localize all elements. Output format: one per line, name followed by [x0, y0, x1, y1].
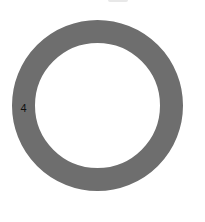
- slice-label: 4: [20, 103, 26, 114]
- top-edge-artifact: [108, 0, 128, 2]
- donut-chart: 4: [0, 0, 205, 222]
- donut-ring-slice: [12, 20, 183, 191]
